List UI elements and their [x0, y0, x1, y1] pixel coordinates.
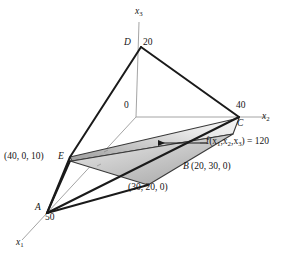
- origin-label: 0: [124, 101, 129, 111]
- edge-A-E-lower: [47, 161, 70, 213]
- level-plane-f-120: [70, 118, 239, 185]
- axis-label-x1: x1: [16, 238, 24, 249]
- vertex-label-B: B: [183, 162, 189, 172]
- vertex-value-A-50: 50: [45, 213, 55, 223]
- edge-D-E-A: [47, 47, 141, 213]
- edge-A-D: [47, 47, 141, 213]
- axis-label-x3-subscript: 3: [139, 10, 142, 17]
- axis-x1-line: [22, 117, 136, 240]
- axis-label-x3: x3: [135, 7, 143, 18]
- edge-D-C: [141, 47, 239, 117]
- vertex-value-D-20: 20: [143, 38, 153, 48]
- vertex-label-E: E: [58, 152, 64, 162]
- axis-label-x2: x2: [262, 112, 270, 123]
- vertex-label-D: D: [124, 38, 131, 48]
- axis-label-x2-subscript: 2: [266, 115, 269, 122]
- vertex-value-C-40: 40: [236, 101, 246, 111]
- vertex-label-A: A: [35, 203, 41, 213]
- axis-x3-line: [136, 22, 139, 117]
- point-label-30-20-0: (30, 20, 0): [128, 183, 168, 193]
- vertex-coords-E: (40, 0, 10): [4, 152, 44, 162]
- vertex-label-C: C: [237, 119, 243, 129]
- axis-label-x1-subscript: 1: [20, 241, 23, 248]
- annotation-suffix: ) = 120: [242, 136, 270, 146]
- vertex-coords-B: (20, 30, 0): [191, 162, 231, 172]
- annotation-function-label: f(x1,x2,x3) = 120: [206, 137, 269, 148]
